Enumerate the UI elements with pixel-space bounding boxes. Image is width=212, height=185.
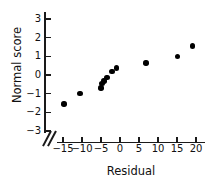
y-tick-mark [46, 74, 51, 76]
x-tick-mark [81, 137, 83, 142]
x-tick-mark [157, 137, 159, 142]
x-tick-label: 20 [181, 143, 211, 154]
y-tick-mark [46, 93, 51, 95]
data-point [190, 43, 195, 48]
x-axis-title: Residual [57, 164, 205, 178]
y-tick-mark [46, 18, 51, 20]
normal-probability-plot: 3210−1−2−3 −15−10−505101520 Residual Nor… [0, 0, 212, 185]
x-tick-mark [100, 137, 102, 142]
data-point [61, 101, 66, 106]
y-tick-label-text: −3 [17, 126, 41, 136]
data-point [77, 91, 82, 96]
x-tick-mark [138, 137, 140, 142]
x-tick-mark [195, 137, 197, 142]
data-point [98, 85, 103, 90]
y-tick-mark [46, 56, 51, 58]
data-point [104, 75, 109, 80]
data-point [143, 60, 148, 65]
y-tick-label: −3 [17, 126, 41, 136]
y-axis-title: Normal score [10, 19, 24, 111]
y-tick-mark [46, 130, 51, 132]
x-tick-mark [62, 137, 64, 142]
y-axis-line [44, 12, 46, 133]
data-point [175, 54, 180, 59]
x-tick-mark [119, 137, 121, 142]
x-tick-mark [176, 137, 178, 142]
y-tick-mark [46, 37, 51, 39]
data-point [114, 65, 119, 70]
y-tick-mark [46, 112, 51, 114]
